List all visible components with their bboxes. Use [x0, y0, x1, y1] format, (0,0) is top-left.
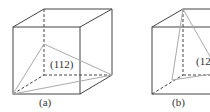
plane-label-b: (123): [196, 55, 210, 67]
caption-a: (a): [39, 96, 51, 108]
plane-123: [172, 9, 210, 80]
caption-b: (b): [172, 96, 185, 108]
cube-a: [13, 9, 112, 94]
plane-label-a: (112): [50, 58, 73, 70]
